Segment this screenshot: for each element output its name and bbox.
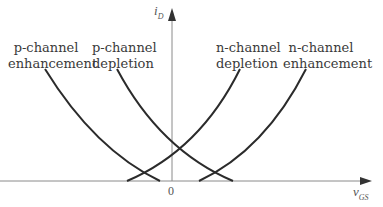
transfer-characteristics-diagram: [0, 0, 383, 207]
label-line1: p-channel: [8, 40, 84, 56]
label-line1: p-channel: [92, 40, 152, 56]
x-axis-label-sub: GS: [359, 193, 369, 202]
label-n-channel-depletion: n-channel depletion: [216, 40, 276, 72]
x-axis-label: vGS: [353, 184, 369, 202]
y-axis-label: iD: [154, 3, 163, 21]
curve-p-channel-enhancement: [45, 69, 160, 181]
label-p-channel-enhancement: p-channel enhancement: [8, 40, 84, 72]
y-axis-label-sub: D: [158, 12, 164, 21]
label-line1: n-channel: [283, 40, 359, 56]
label-line1: n-channel: [216, 40, 276, 56]
curve-n-channel-enhancement: [199, 69, 306, 181]
label-line2: enhancement: [8, 56, 84, 72]
label-n-channel-enhancement: n-channel enhancement: [283, 40, 359, 72]
label-line2: depletion: [92, 56, 152, 72]
label-line2: enhancement: [283, 56, 359, 72]
curve-n-channel-depletion: [127, 69, 240, 181]
curve-p-channel-depletion: [117, 69, 233, 181]
label-line2: depletion: [216, 56, 276, 72]
label-p-channel-depletion: p-channel depletion: [92, 40, 152, 72]
y-axis-arrow-icon: [168, 8, 176, 21]
origin-label: 0: [168, 184, 174, 199]
